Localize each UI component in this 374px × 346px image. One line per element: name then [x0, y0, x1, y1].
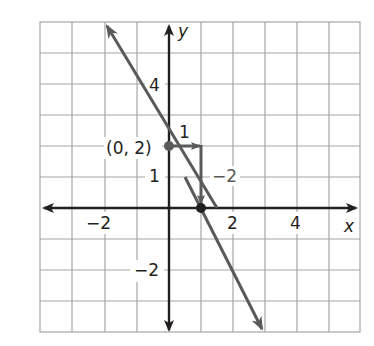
- y-axis-label: y: [177, 21, 189, 41]
- coordinate-graph: y x 4 1 −2 −2 2 4 (0, 2) 1 −2: [0, 0, 374, 346]
- rise-label: −2: [212, 166, 237, 186]
- y-intercept-point: [164, 141, 174, 151]
- y-tick-1: 1: [149, 166, 160, 186]
- point-label: (0, 2): [106, 138, 152, 158]
- run-label: 1: [179, 122, 190, 142]
- graph-line-lower: [185, 177, 262, 329]
- y-tick-neg2: −2: [134, 260, 159, 280]
- y-tick-4: 4: [149, 75, 160, 95]
- x-axis-label: x: [343, 216, 355, 236]
- x-tick-4: 4: [290, 213, 301, 233]
- x-tick-neg2: −2: [86, 213, 111, 233]
- x-intercept-point: [196, 203, 206, 213]
- x-tick-2: 2: [227, 213, 238, 233]
- label-knockouts: [84, 75, 306, 282]
